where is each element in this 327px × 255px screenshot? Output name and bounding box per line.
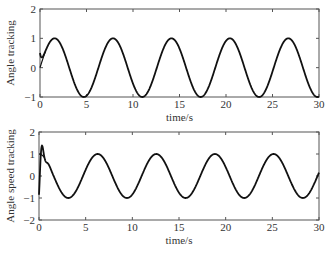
- y-axis-label: Angle speed tracking: [4, 129, 16, 223]
- x-tick-label: 25: [267, 98, 279, 110]
- y-tick-label: 0: [31, 62, 37, 74]
- y-tick-label: 1: [31, 32, 37, 44]
- x-tick-label: 10: [127, 221, 139, 233]
- y-tick-label: −1: [23, 192, 35, 204]
- y-tick-label: −2: [23, 214, 35, 226]
- subplot-1: 051015202530−1012time/sAngle tracking: [4, 3, 325, 123]
- x-tick-label: 25: [267, 221, 279, 233]
- x-tick-label: 5: [83, 221, 89, 233]
- x-axis-label: time/s: [166, 234, 193, 246]
- x-tick-label: 20: [220, 221, 232, 233]
- y-tick-label: 2: [31, 3, 37, 15]
- x-tick-label: 0: [36, 221, 42, 233]
- chart-figure: 051015202530−1012time/sAngle tracking051…: [0, 0, 327, 255]
- tracking-curve: [39, 146, 319, 198]
- y-tick-label: 2: [30, 126, 36, 138]
- x-tick-label: 20: [221, 98, 233, 110]
- tracking-curve: [40, 38, 319, 97]
- y-tick-label: 0: [30, 170, 36, 182]
- x-axis-label: time/s: [166, 111, 193, 123]
- y-tick-label: 1: [30, 148, 36, 160]
- x-tick-label: 15: [174, 98, 186, 110]
- y-tick-label: −1: [24, 91, 36, 103]
- plot-frame: [40, 9, 319, 97]
- y-axis-label: Angle tracking: [4, 20, 16, 86]
- x-tick-label: 30: [314, 98, 326, 110]
- x-tick-label: 10: [128, 98, 140, 110]
- x-tick-label: 5: [84, 98, 90, 110]
- subplot-2: 051015202530−2−1012time/sAngle speed tra…: [4, 126, 325, 246]
- x-tick-label: 15: [174, 221, 186, 233]
- x-tick-label: 30: [314, 221, 326, 233]
- plot-frame: [39, 132, 319, 220]
- x-tick-label: 0: [37, 98, 43, 110]
